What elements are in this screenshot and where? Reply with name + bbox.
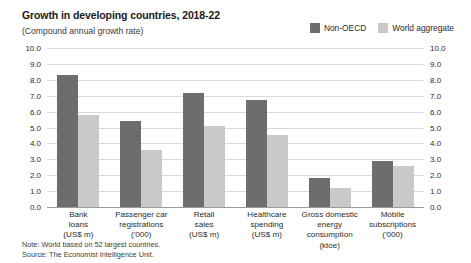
legend-label-world-aggregate: World aggregate [392, 23, 454, 33]
bar-group [235, 48, 298, 207]
y-axis-tick-left: 0.0 [30, 204, 41, 212]
y-axis-tick-left: 7.0 [30, 93, 41, 101]
bar-world-aggregate [78, 115, 99, 207]
bar-group [110, 48, 173, 207]
bar-groups [47, 48, 424, 207]
category-label: Gross domesticenergy consumption(ktoe) [298, 210, 361, 251]
category-label-line2: subscriptions [362, 220, 423, 230]
category-label-line2: registrations [111, 220, 172, 230]
category-label-unit: ('000) [362, 230, 423, 240]
category-label-unit: (US$ m) [174, 230, 235, 240]
y-axis-tick-left: 6.0 [30, 109, 41, 117]
legend-label-non-oecd: Non-OECD [324, 23, 366, 33]
category-label-line1: Gross domestic [299, 210, 360, 220]
legend-item-world-aggregate: World aggregate [378, 23, 454, 33]
y-axis-tick-right: 2.0 [430, 172, 441, 180]
bar-world-aggregate [393, 166, 414, 207]
chart-title: Growth in developing countries, 2018-22 [22, 9, 220, 21]
category-label-line1: Passenger car [111, 210, 172, 220]
legend-swatch-non-oecd [310, 23, 320, 33]
bar-non-oecd [246, 100, 267, 207]
bar-non-oecd [120, 121, 141, 207]
category-label-unit: (ktoe) [299, 241, 360, 251]
category-label-line1: Bank [48, 210, 109, 220]
bar-world-aggregate [267, 135, 288, 207]
y-axis-tick-left: 8.0 [30, 77, 41, 85]
bar-group [361, 48, 424, 207]
category-label-line1: Healthcare [236, 210, 297, 220]
bar-non-oecd [372, 161, 393, 207]
legend-item-non-oecd: Non-OECD [310, 23, 366, 33]
y-axis-tick-left: 1.0 [30, 188, 41, 196]
bar-world-aggregate [330, 188, 351, 207]
category-label-line2: energy consumption [299, 220, 360, 240]
category-label-line2: sales [174, 220, 235, 230]
y-axis-tick-right: 8.0 [430, 77, 441, 85]
y-axis-tick-left: 5.0 [30, 125, 41, 133]
y-axis-tick-right: 6.0 [430, 109, 441, 117]
y-axis-tick-left: 9.0 [30, 61, 41, 69]
y-axis-tick-left: 2.0 [30, 172, 41, 180]
y-axis-tick-right: 5.0 [430, 125, 441, 133]
category-label-line1: Retail [174, 210, 235, 220]
category-label-line1: Mobile [362, 210, 423, 220]
gridline: 0.00.0 [47, 207, 424, 208]
bar-world-aggregate [141, 150, 162, 207]
category-label: Healthcarespending(US$ m) [235, 210, 298, 251]
chart-legend: Non-OECD World aggregate [310, 23, 454, 33]
bar-group [173, 48, 236, 207]
category-label: Retailsales(US$ m) [173, 210, 236, 251]
chart-source: Source: The Economist Intelligence Unit. [22, 250, 160, 260]
y-axis-tick-left: 10.0 [25, 45, 41, 53]
y-axis-tick-left: 4.0 [30, 140, 41, 148]
legend-swatch-world-aggregate [378, 23, 388, 33]
bar-non-oecd [309, 178, 330, 207]
bar-non-oecd [183, 93, 204, 207]
y-axis-tick-right: 0.0 [430, 204, 441, 212]
category-label-line2: loans [48, 220, 109, 230]
y-axis-tick-right: 4.0 [430, 140, 441, 148]
y-axis-tick-right: 3.0 [430, 156, 441, 164]
y-axis-tick-right: 1.0 [430, 188, 441, 196]
bar-non-oecd [57, 75, 78, 207]
footnotes: Note: World based on 52 largest countrie… [22, 240, 160, 259]
bar-world-aggregate [204, 126, 225, 207]
category-label: Mobilesubscriptions('000) [361, 210, 424, 251]
chart-subtitle: (Compound annual growth rate) [22, 26, 143, 36]
y-axis-tick-right: 9.0 [430, 61, 441, 69]
y-axis-tick-right: 7.0 [430, 93, 441, 101]
category-label-unit: (US$ m) [236, 230, 297, 240]
category-label-line2: spending [236, 220, 297, 230]
bar-group [47, 48, 110, 207]
y-axis-tick-left: 3.0 [30, 156, 41, 164]
y-axis-tick-right: 10.0 [430, 45, 446, 53]
plot-area: 10.010.09.09.08.08.07.07.06.06.05.05.04.… [47, 48, 424, 207]
bar-group [298, 48, 361, 207]
chart-note: Note: World based on 52 largest countrie… [22, 240, 160, 250]
